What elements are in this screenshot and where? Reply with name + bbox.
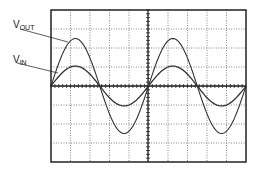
vin-label: VIN (13, 54, 27, 66)
oscilloscope-display (0, 0, 261, 174)
vout-label: VOUT (13, 19, 34, 31)
